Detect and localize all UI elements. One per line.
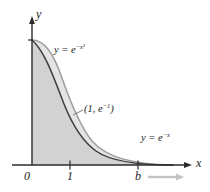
- curve-label-exponential: y = e−x: [141, 133, 170, 144]
- curve-label-gaussian: y = e−x²: [54, 45, 85, 56]
- b-to-infinity-arrow: [148, 174, 184, 181]
- y-axis-label: y: [36, 8, 41, 20]
- graph-canvas: [0, 0, 210, 192]
- curve-label-gaussian-exponent: −x²: [76, 43, 85, 50]
- figure-container: y = e−x² y = e−x (1, e−1) 0 1 b y x: [0, 0, 210, 192]
- x-axis-label: x: [196, 157, 201, 169]
- x-axis-arrowhead: [184, 162, 192, 168]
- x-tick-label-b: b: [135, 170, 141, 182]
- intersection-point-label: (1, e−1): [84, 104, 114, 115]
- curve-label-exponential-exponent: −x: [163, 131, 170, 138]
- intersection-point-label-base: (1, e: [84, 103, 103, 114]
- x-tick-label-0: 0: [24, 170, 30, 182]
- intersection-point-label-suffix: ): [110, 103, 114, 114]
- y-axis-arrowhead: [29, 16, 35, 24]
- curve-label-exponential-base: y = e: [141, 132, 163, 143]
- x-tick-label-1: 1: [67, 170, 73, 182]
- curve-label-gaussian-base: y = e: [54, 44, 76, 55]
